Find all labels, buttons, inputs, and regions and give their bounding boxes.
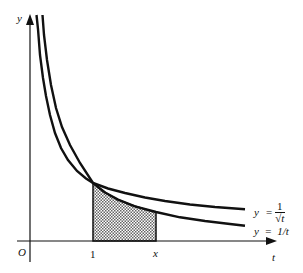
- t-axis-label: t: [272, 252, 275, 263]
- label-equals: =: [266, 207, 272, 218]
- label-one-over-sqrt-t: y = 1 √t: [254, 201, 285, 224]
- tick-label-1: 1: [90, 249, 96, 260]
- tick-label-x: x: [153, 248, 158, 259]
- origin-label: O: [18, 247, 26, 258]
- x-axis-arrow-icon: [266, 237, 277, 245]
- curve-one-over-sqrt-t: [43, 15, 246, 209]
- denominator: √t: [275, 213, 284, 224]
- label-one-over-t: y = 1/t: [254, 226, 289, 237]
- fraction: 1 √t: [275, 201, 285, 224]
- label-y: y: [254, 207, 259, 218]
- y-axis-label: y: [17, 13, 22, 24]
- curve-one-over-t: [37, 15, 246, 226]
- y-axis-arrow-icon: [26, 14, 34, 25]
